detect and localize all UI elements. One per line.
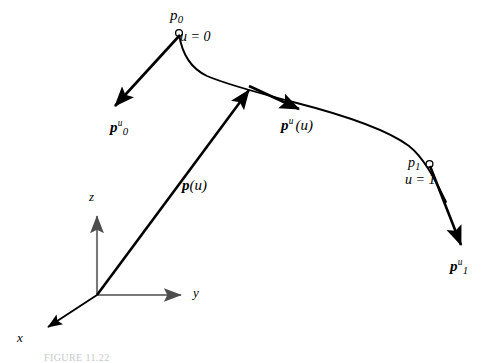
label-p1: p1: [408, 156, 420, 172]
label-p1-subscript: 1: [415, 161, 420, 172]
label-p1-tangent: pu1: [450, 258, 468, 276]
label-p-of-u-arg: (u): [190, 177, 208, 193]
label-p-of-u: p(u): [182, 178, 207, 193]
label-u-equals-0: u = 0: [180, 30, 210, 44]
label-p1-tangent-symbol: p: [450, 258, 458, 274]
figure-canvas: p0 u = 0 pu0 pu(u) p(u) p1 u = 1 pu1 z y…: [0, 0, 489, 363]
label-p0-tangent: pu0: [110, 119, 128, 137]
label-p1-tangent-superscript: u: [458, 257, 463, 267]
label-pu-tangent: pu(u): [281, 117, 313, 133]
axis-label-z: z: [89, 190, 94, 203]
label-p0-subscript: 0: [178, 13, 183, 25]
label-p0-tangent-superscript: u: [118, 118, 123, 128]
label-pu-tangent-superscript: u: [289, 116, 294, 126]
label-pu-tangent-symbol: p: [281, 117, 289, 133]
label-p0-tangent-subscript: 0: [123, 125, 128, 137]
label-u-equals-1: u = 1: [405, 173, 435, 187]
axis-label-y: y: [193, 286, 199, 299]
label-p-of-u-symbol: p: [182, 177, 190, 193]
figure-caption-fragment: FIGURE 11.22: [44, 352, 184, 361]
p0-tangent-vector: [115, 35, 180, 106]
label-p0: p0: [170, 8, 183, 25]
label-p1-symbol: p: [408, 155, 415, 170]
label-p0-tangent-symbol: p: [110, 119, 118, 135]
x-axis-line: [48, 295, 97, 327]
pu-tangent-vector: [249, 86, 299, 109]
label-pu-tangent-arg: (u): [296, 117, 314, 133]
label-p0-symbol: p: [170, 7, 178, 23]
axis-label-x: x: [17, 331, 23, 344]
vector-arrows: [97, 35, 461, 295]
label-p1-tangent-subscript: 1: [463, 264, 468, 276]
